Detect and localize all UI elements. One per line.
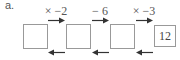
arrow-right-icon bbox=[48, 17, 65, 24]
answer-box-2[interactable] bbox=[66, 24, 91, 49]
arrow-right-icon bbox=[92, 17, 109, 24]
answer-box-1[interactable] bbox=[23, 24, 48, 49]
given-value-box: 12 bbox=[154, 25, 176, 47]
arrow-left-icon bbox=[92, 49, 109, 56]
arrow-right-icon bbox=[136, 17, 153, 24]
problem-label: a. bbox=[5, 0, 14, 11]
arrow-left-icon bbox=[136, 49, 153, 56]
answer-box-3[interactable] bbox=[110, 24, 135, 49]
arrow-left-icon bbox=[48, 49, 65, 56]
